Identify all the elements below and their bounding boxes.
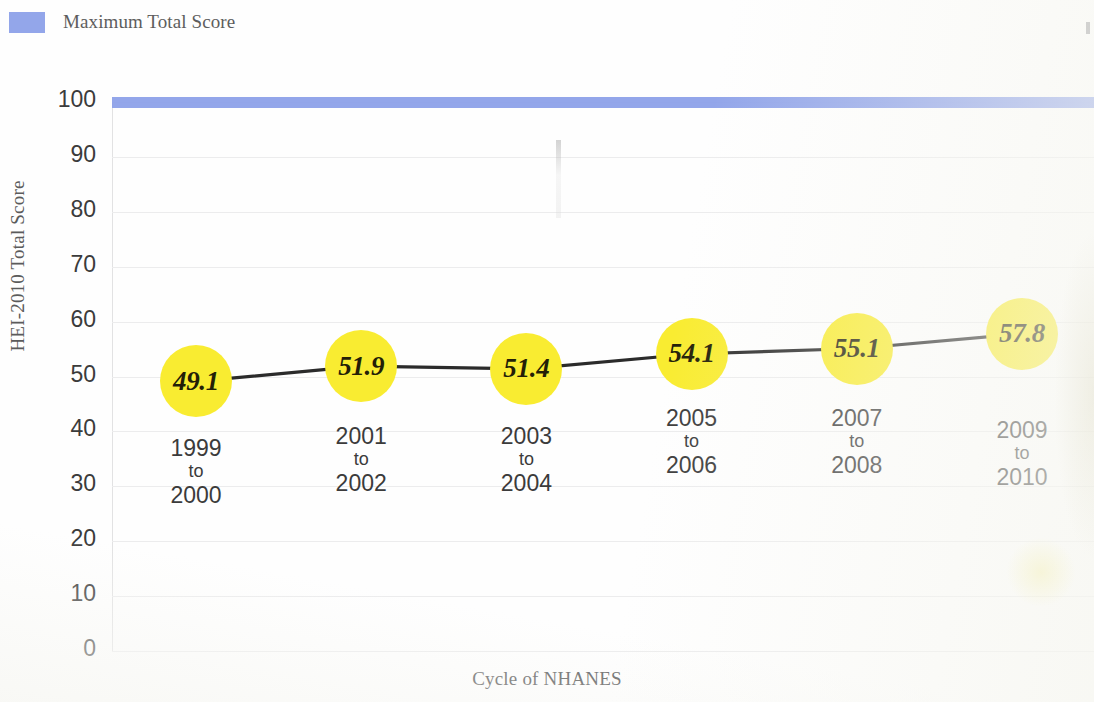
x-axis-category-label: 2009to2010 — [947, 418, 1094, 489]
x-axis-category-label: 2007to2008 — [782, 406, 932, 477]
category-end-year: 2010 — [947, 465, 1094, 490]
category-separator-word: to — [947, 443, 1094, 465]
data-point-bubble: 51.4 — [490, 333, 562, 405]
gridline — [112, 541, 1094, 542]
maximum-total-score-band — [112, 97, 1094, 108]
category-end-year: 2004 — [451, 471, 601, 496]
gridline — [112, 596, 1094, 597]
category-start-year: 2001 — [286, 424, 436, 449]
category-separator-word: to — [782, 431, 932, 453]
category-end-year: 2008 — [782, 453, 932, 478]
category-separator-word: to — [451, 449, 601, 471]
category-separator-word: to — [121, 461, 271, 483]
bubble-line-chart: 1009080706050403020100 HEI-2010 Total Sc… — [0, 0, 1094, 702]
category-start-year: 1999 — [121, 436, 271, 461]
gridline — [112, 377, 1094, 378]
category-start-year: 2005 — [617, 406, 767, 431]
category-end-year: 2000 — [121, 483, 271, 508]
x-axis-title: Cycle of NHANES — [0, 668, 1094, 690]
y-axis-title: HEI-2010 Total Score — [7, 106, 29, 426]
category-start-year: 2009 — [947, 418, 1094, 443]
gridline — [112, 267, 1094, 268]
y-axis-tick-label: 20 — [0, 525, 96, 552]
data-point-bubble: 55.1 — [821, 313, 893, 385]
x-axis-category-label: 1999to2000 — [121, 436, 271, 507]
gridline — [112, 651, 1094, 652]
x-axis-category-label: 2005to2006 — [617, 406, 767, 477]
gridline — [112, 322, 1094, 323]
data-point-bubble: 54.1 — [656, 318, 728, 390]
plot-area — [112, 102, 1094, 651]
y-axis-tick-label: 30 — [0, 470, 96, 497]
y-axis-tick-label: 0 — [0, 635, 96, 662]
y-axis-tick-label: 10 — [0, 580, 96, 607]
category-end-year: 2002 — [286, 471, 436, 496]
category-separator-word: to — [617, 431, 767, 453]
category-separator-word: to — [286, 449, 436, 471]
x-axis-category-label: 2001to2002 — [286, 424, 436, 495]
gridline — [112, 212, 1094, 213]
category-end-year: 2006 — [617, 453, 767, 478]
data-point-bubble: 49.1 — [160, 345, 232, 417]
gridline — [112, 157, 1094, 158]
category-start-year: 2007 — [782, 406, 932, 431]
data-point-bubble: 51.9 — [325, 330, 397, 402]
x-axis-category-label: 2003to2004 — [451, 424, 601, 495]
data-point-bubble: 57.8 — [986, 298, 1058, 370]
category-start-year: 2003 — [451, 424, 601, 449]
